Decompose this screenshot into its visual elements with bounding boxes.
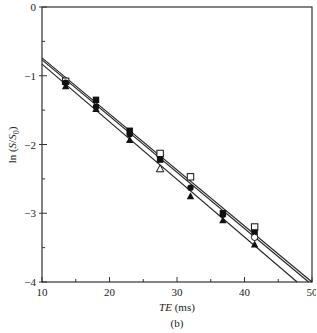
open-square-marker xyxy=(251,224,257,230)
fit-lines xyxy=(42,58,312,282)
y-tick-label: −2 xyxy=(24,139,36,151)
plot-border xyxy=(42,7,312,282)
fit-2-line xyxy=(42,60,309,282)
filled-circle-marker xyxy=(187,185,193,191)
x-tick-label: 20 xyxy=(104,286,116,298)
data-markers xyxy=(62,78,258,247)
chart: 1020304050 0−1−2−3−4 ln (S/S0) TE (ms) (… xyxy=(0,0,316,333)
y-tick-label: −3 xyxy=(24,207,36,219)
y-axis-label: ln (S/S0) xyxy=(6,126,21,163)
x-tick-label: 40 xyxy=(239,286,251,298)
fit-3-line xyxy=(42,64,297,282)
x-tick-label: 30 xyxy=(172,286,184,298)
y-tick-label: −1 xyxy=(24,70,36,82)
open-circle-marker xyxy=(251,234,257,240)
x-tick-label: 50 xyxy=(307,286,317,298)
x-tick-label: 10 xyxy=(37,286,49,298)
filled-square-marker xyxy=(157,156,163,162)
filled-square-marker xyxy=(93,97,99,103)
panel-label: (b) xyxy=(171,317,184,330)
open-square-marker xyxy=(157,150,163,156)
x-axis: 1020304050 xyxy=(37,277,317,298)
plot-frame xyxy=(42,7,312,282)
y-tick-label: 0 xyxy=(31,1,37,13)
open-square-marker xyxy=(187,174,193,180)
y-tick-label: −4 xyxy=(24,276,36,288)
filled-triangle-marker xyxy=(219,216,226,223)
y-axis: 0−1−2−3−4 xyxy=(24,1,47,288)
open-triangle-marker xyxy=(156,165,163,172)
fit-1-line xyxy=(42,58,312,282)
x-axis-label: TE (ms) xyxy=(159,301,195,314)
